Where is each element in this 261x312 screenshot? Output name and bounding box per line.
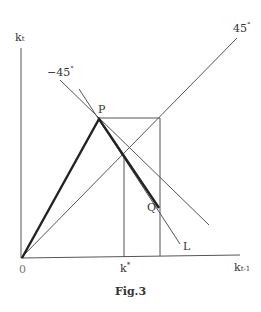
figure-caption: Fig.3: [0, 285, 261, 298]
label-neg45-degree: −45°: [47, 66, 74, 78]
point-p-label: P: [98, 104, 105, 115]
line-neg45-degree: [60, 80, 209, 225]
point-q-label: Q: [147, 202, 156, 213]
line-l-label: L: [183, 241, 190, 252]
y-axis-label: kt: [15, 32, 25, 43]
label-45-degree: 45°: [233, 22, 251, 34]
diagram-canvas: [0, 0, 261, 312]
kstar-label: k*: [120, 262, 130, 274]
map-curve: [22, 119, 159, 258]
x-axis-label: kt-1: [234, 262, 250, 273]
x-axis: [21, 255, 240, 258]
line-l: [79, 89, 180, 244]
origin-label: 0: [19, 264, 26, 275]
